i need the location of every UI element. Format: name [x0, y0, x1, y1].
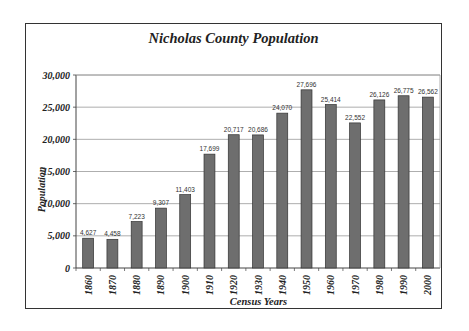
- bar: [83, 238, 94, 268]
- data-label: 26,775: [394, 87, 414, 94]
- data-label: 24,070: [272, 104, 292, 111]
- bar: [398, 96, 409, 268]
- bar: [374, 100, 385, 268]
- x-tick-label: 1940: [277, 275, 288, 295]
- bar: [204, 154, 215, 268]
- data-label: 26,126: [369, 91, 389, 98]
- x-tick-label: 1960: [325, 275, 336, 295]
- data-label: 9,307: [153, 199, 170, 206]
- x-tick-label: 1890: [155, 275, 166, 295]
- data-label: 20,717: [224, 126, 244, 133]
- bar: [107, 239, 118, 268]
- y-tick-label: 25,000: [42, 102, 71, 113]
- y-tick-label: 30,000: [42, 70, 71, 81]
- x-tick-label: 1920: [228, 275, 239, 295]
- y-tick-label: 5,000: [48, 230, 71, 241]
- data-label: 22,552: [345, 114, 365, 121]
- data-label: 27,696: [297, 81, 317, 88]
- y-tick-label: 20,000: [42, 134, 71, 145]
- bar: [180, 195, 191, 268]
- data-label: 20,686: [248, 126, 268, 133]
- x-tick-label: 1930: [253, 275, 264, 295]
- data-label: 11,403: [175, 186, 195, 193]
- bar: [155, 208, 166, 268]
- bar: [277, 113, 288, 268]
- x-tick-label: 1990: [398, 275, 409, 295]
- bar: [131, 222, 142, 268]
- x-tick-label: 1860: [83, 275, 94, 295]
- x-tick-label: 2000: [422, 275, 433, 296]
- x-tick-label: 1880: [131, 275, 142, 295]
- x-tick-label: 1970: [350, 275, 361, 295]
- bar: [422, 97, 433, 268]
- bar: [301, 90, 312, 268]
- data-label: 17,699: [200, 145, 220, 152]
- x-tick-label: 1950: [301, 275, 312, 295]
- bar: [325, 105, 336, 268]
- x-tick-label: 1900: [180, 275, 191, 295]
- x-tick-label: 1980: [374, 275, 385, 295]
- data-label: 26,562: [418, 88, 438, 95]
- bar: [253, 135, 264, 268]
- data-label: 25,414: [321, 96, 341, 103]
- bar: [350, 123, 361, 268]
- bar: [228, 135, 239, 268]
- data-label: 4,627: [80, 229, 97, 236]
- y-tick-label: 0: [65, 263, 70, 274]
- bar-plot: 05,00010,00015,00020,00025,00030,0004,62…: [0, 0, 469, 331]
- y-tick-label: 10,000: [43, 198, 71, 209]
- x-tick-label: 1910: [204, 275, 215, 295]
- data-label: 4,458: [104, 230, 121, 237]
- data-label: 7,223: [129, 213, 146, 220]
- x-tick-label: 1870: [107, 275, 118, 295]
- y-tick-label: 15,000: [43, 166, 71, 177]
